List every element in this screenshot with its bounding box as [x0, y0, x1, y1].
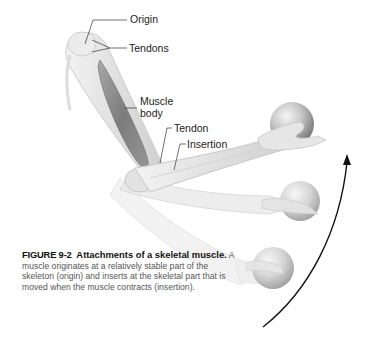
figure-number: FIGURE 9-2 — [22, 249, 72, 260]
label-muscle-body: Muscle body — [140, 95, 173, 119]
label-tendons: Tendons — [129, 42, 169, 54]
figure-title-line1: Attachments of — [76, 249, 144, 260]
arm-illustration — [0, 0, 368, 348]
label-tendon: Tendon — [174, 122, 208, 134]
figure-root: Origin Tendons Muscle body Tendon Insert… — [0, 0, 368, 348]
figure-caption: FIGURE 9-2 Attachments of a skeletal mus… — [22, 250, 242, 292]
arrowhead-icon — [343, 154, 351, 165]
figure-title-line2: a skeletal muscle. — [147, 249, 227, 260]
label-muscle-body-line1: Muscle — [140, 95, 173, 107]
label-insertion: Insertion — [187, 138, 227, 150]
label-muscle-body-line2: body — [140, 107, 173, 119]
hand-top — [258, 122, 326, 150]
label-origin: Origin — [130, 13, 158, 25]
